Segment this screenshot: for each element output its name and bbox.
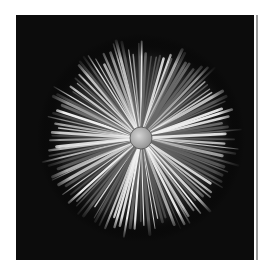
photo-frame [16,15,254,260]
center-disc [130,127,152,149]
right-edge-line [256,15,258,260]
starburst-image [16,15,254,260]
